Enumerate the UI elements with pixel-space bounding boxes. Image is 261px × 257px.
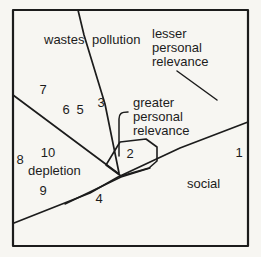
region-label-social: social (187, 176, 220, 191)
point-7: 7 (39, 82, 46, 97)
point-10: 10 (41, 145, 55, 160)
concept-map-svg: wastes pollution depletion social lesser… (0, 0, 261, 257)
point-4: 4 (95, 191, 102, 206)
point-6: 6 (62, 102, 69, 117)
point-9: 9 (39, 183, 46, 198)
greater-annotation-line1: greater (133, 95, 175, 110)
region-label-pollution: pollution (92, 32, 140, 47)
lesser-relevance-annotation: lesser personal relevance (152, 26, 208, 69)
lesser-annotation-line1: lesser (152, 26, 187, 41)
point-5: 5 (76, 102, 83, 117)
figure-canvas: wastes pollution depletion social lesser… (0, 0, 261, 257)
lesser-annotation-line3: relevance (152, 54, 208, 69)
lesser-annotation-line2: personal (152, 40, 202, 55)
lesser-relevance-pointer-line (177, 71, 217, 100)
point-1: 1 (235, 145, 242, 160)
point-3: 3 (97, 95, 104, 110)
region-label-wastes: wastes (43, 32, 85, 47)
greater-annotation-line2: personal (133, 109, 183, 124)
point-2: 2 (126, 146, 133, 161)
point-8: 8 (16, 152, 23, 167)
greater-relevance-annotation: greater personal relevance (133, 95, 189, 138)
greater-annotation-line3: relevance (133, 123, 189, 138)
region-label-depletion: depletion (28, 163, 81, 178)
